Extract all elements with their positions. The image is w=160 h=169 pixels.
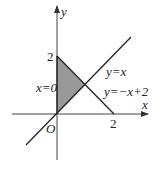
y-tick-2: 2 [47,49,54,64]
x-tick-2: 2 [110,116,117,131]
shaded-region [57,56,85,114]
y-axis-label: y [59,4,67,19]
label-y-equals-neg-x-plus-2: y=−x+2 [102,84,149,99]
x-axis-label: x [141,97,148,112]
label-y-equals-x: y=x [104,64,127,79]
coordinate-diagram: y x O 2 2 y=x y=−x+2 x=0 [0,0,160,169]
origin-label: O [46,121,56,136]
label-x-equals-0: x=0 [35,80,58,95]
